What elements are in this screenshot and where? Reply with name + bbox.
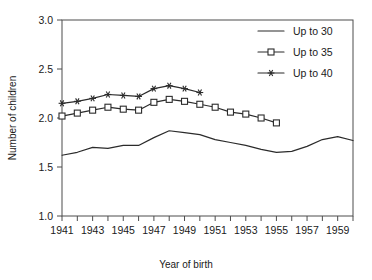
square-marker	[90, 107, 96, 113]
square-marker	[166, 96, 172, 102]
square-marker	[120, 106, 126, 112]
legend-label: Up to 40	[293, 67, 333, 79]
square-marker	[227, 109, 233, 115]
y-tick-label: 1.5	[38, 161, 53, 173]
square-marker	[74, 110, 80, 116]
x-tick-label: 1957	[295, 224, 319, 236]
legend-label: Up to 30	[293, 25, 333, 37]
x-axis-title: Year of birth	[159, 259, 213, 270]
square-marker	[258, 115, 264, 121]
square-marker	[243, 111, 249, 117]
square-marker	[268, 49, 274, 55]
x-tick-label: 1949	[173, 224, 197, 236]
square-marker	[105, 104, 111, 110]
x-tick-label: 1951	[203, 224, 227, 236]
x-tick-label: 1941	[50, 224, 74, 236]
chart-figure: 1.01.52.02.53.0 194119431945194719491951…	[0, 0, 372, 280]
y-tick-label: 3.0	[38, 14, 53, 26]
chart-background	[0, 0, 372, 280]
square-marker	[151, 99, 157, 105]
x-tick-label: 1959	[326, 224, 350, 236]
y-tick-label: 1.0	[38, 210, 53, 222]
x-tick-label: 1943	[81, 224, 105, 236]
square-marker	[182, 98, 188, 104]
x-tick-label: 1955	[265, 224, 289, 236]
square-marker	[59, 113, 65, 119]
y-axis-title: Number of children	[7, 76, 18, 160]
square-marker	[197, 101, 203, 107]
square-marker	[136, 107, 142, 113]
y-tick-label: 2.0	[38, 112, 53, 124]
x-tick-label: 1947	[142, 224, 166, 236]
square-marker	[212, 104, 218, 110]
legend-label: Up to 35	[293, 46, 333, 58]
square-marker	[273, 120, 279, 126]
y-tick-label: 2.5	[38, 63, 53, 75]
x-tick-label: 1953	[234, 224, 258, 236]
x-tick-label: 1945	[112, 224, 136, 236]
